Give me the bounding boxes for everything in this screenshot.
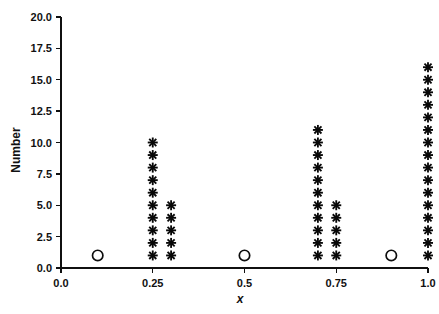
axis-lines [61,17,428,268]
asterisk-marker [423,112,433,122]
scatter-plot: 0.02.55.07.510.012.515.017.520.0 0.00.25… [0,0,439,314]
y-tick-label: 15.0 [31,74,52,86]
x-tick-label: 0.5 [237,277,252,289]
asterisk-marker [313,200,323,210]
open-circle-markers [93,250,397,260]
y-tick-label: 17.5 [31,42,52,54]
y-tick-label: 12.5 [31,105,52,117]
asterisk-marker [313,175,323,185]
asterisk-marker [313,163,323,173]
asterisk-marker [148,138,158,148]
asterisk-marker [166,213,176,223]
asterisk-marker [423,213,433,223]
asterisk-marker [331,213,341,223]
x-axis-title: x [236,292,245,306]
y-tick-label: 0.0 [37,262,52,274]
asterisk-marker [148,188,158,198]
asterisk-marker [313,150,323,160]
asterisk-markers [148,62,433,260]
asterisk-marker [166,238,176,248]
x-axis-tick-labels: 0.00.250.50.751.0 [53,277,435,289]
asterisk-marker [423,138,433,148]
asterisk-marker [313,238,323,248]
asterisk-marker [148,200,158,210]
chart-figure: 0.02.55.07.510.012.515.017.520.0 0.00.25… [0,0,439,314]
asterisk-marker [423,163,433,173]
asterisk-marker [423,125,433,135]
asterisk-marker [148,238,158,248]
asterisk-marker [423,200,433,210]
asterisk-marker [313,188,323,198]
y-tick-label: 10.0 [31,137,52,149]
y-axis-title: Number [9,127,23,173]
asterisk-marker [148,225,158,235]
asterisk-marker [423,175,433,185]
asterisk-marker [148,175,158,185]
x-tick-label: 0.25 [142,277,163,289]
asterisk-marker [313,125,323,135]
asterisk-marker [423,238,433,248]
asterisk-marker [313,138,323,148]
asterisk-marker [331,250,341,260]
asterisk-marker [166,200,176,210]
x-tick-label: 0.0 [53,277,68,289]
asterisk-marker [313,213,323,223]
x-tick-label: 0.75 [326,277,347,289]
asterisk-marker [423,225,433,235]
y-axis-tick-labels: 0.02.55.07.510.012.515.017.520.0 [31,11,52,274]
open-circle-marker [239,250,249,260]
asterisk-marker [423,150,433,160]
asterisk-marker [148,213,158,223]
y-tick-label: 20.0 [31,11,52,23]
asterisk-marker [148,150,158,160]
open-circle-marker [386,250,396,260]
y-tick-label: 7.5 [37,168,52,180]
x-tick-label: 1.0 [420,277,435,289]
y-tick-label: 2.5 [37,231,52,243]
open-circle-marker [93,250,103,260]
asterisk-marker [166,250,176,260]
asterisk-marker [148,163,158,173]
asterisk-marker [331,238,341,248]
asterisk-marker [166,225,176,235]
asterisk-marker [148,250,158,260]
asterisk-marker [313,250,323,260]
asterisk-marker [331,225,341,235]
asterisk-marker [423,100,433,110]
y-tick-label: 5.0 [37,199,52,211]
asterisk-marker [423,87,433,97]
asterisk-marker [331,200,341,210]
asterisk-marker [313,225,323,235]
asterisk-marker [423,75,433,85]
asterisk-marker [423,62,433,72]
asterisk-marker [423,188,433,198]
asterisk-marker [423,250,433,260]
